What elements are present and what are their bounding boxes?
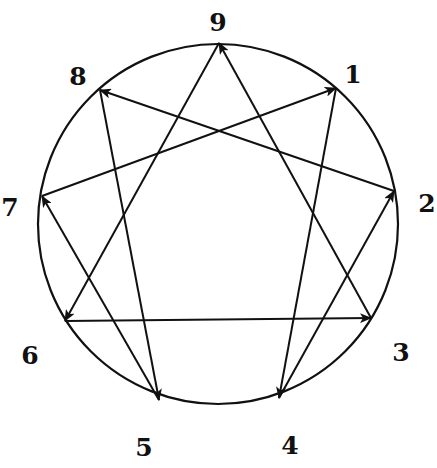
point-label-3: 3 xyxy=(392,338,409,367)
point-label-2: 2 xyxy=(418,189,435,218)
enneagram-diagram: 912345678 xyxy=(0,0,437,468)
point-label-7: 7 xyxy=(1,193,18,222)
arrow-4-to-2 xyxy=(279,191,394,398)
arrow-5-to-7 xyxy=(42,196,159,400)
point-label-5: 5 xyxy=(135,433,152,462)
arrow-7-to-1 xyxy=(42,88,336,196)
point-label-4: 4 xyxy=(281,431,298,460)
arrow-lines xyxy=(42,43,394,400)
arrow-8-to-5 xyxy=(100,90,159,400)
outer-circle xyxy=(38,44,398,404)
arrow-9-to-6 xyxy=(65,43,219,321)
arrow-2-to-8 xyxy=(100,90,394,191)
arrow-1-to-4 xyxy=(279,88,336,398)
point-label-8: 8 xyxy=(69,62,86,91)
arrow-6-to-3 xyxy=(65,318,371,321)
point-label-6: 6 xyxy=(21,341,38,370)
point-label-1: 1 xyxy=(344,60,361,89)
point-label-9: 9 xyxy=(209,8,226,37)
